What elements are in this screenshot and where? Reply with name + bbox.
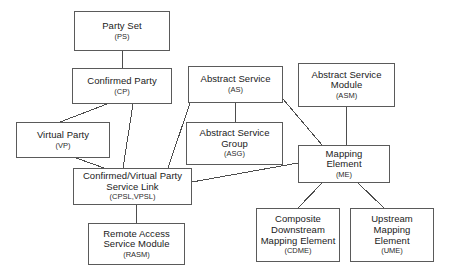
connector-line-cp-cpsl (123, 104, 133, 168)
node-box-ume[interactable]: Upstream Mapping Element(UME) (350, 208, 434, 262)
node-title-vp: Virtual Party (37, 130, 89, 141)
node-title-asg: Abstract Service Group (200, 128, 270, 149)
connector-line-me-cdme (298, 183, 322, 208)
node-abbr-cpsl: (CPSL,VPSL) (110, 193, 156, 201)
connector-line-vp-cpsl (76, 158, 104, 168)
node-abbr-ps: (PS) (115, 33, 130, 41)
connector-line-cp-vp (60, 104, 107, 122)
node-title-ume: Upstream Mapping Element (371, 214, 413, 246)
node-title-me: Mapping Element (326, 149, 363, 170)
connector-line-cpsl-me (192, 163, 298, 182)
node-title-cdme: Composite Downstream Mapping Element (261, 214, 336, 246)
node-abbr-rasm: (RASM) (123, 251, 150, 259)
node-abbr-asg: (ASG) (224, 150, 245, 158)
node-box-asg[interactable]: Abstract Service Group(ASG) (186, 122, 283, 165)
connector-line-me-ume (358, 183, 384, 208)
node-abbr-as: (AS) (228, 86, 243, 94)
node-abbr-cp: (CP) (114, 88, 129, 96)
node-abbr-asm: (ASM) (336, 92, 357, 100)
node-abbr-cdme: (CDME) (284, 247, 311, 255)
node-box-cpsl[interactable]: Confirmed/Virtual Party Service Link(CPS… (73, 168, 192, 205)
entity-relationship-diagram: Party Set(PS)Confirmed Party(CP)Abstract… (0, 0, 450, 272)
node-box-vp[interactable]: Virtual Party(VP) (16, 122, 110, 158)
node-box-rasm[interactable]: Remote Access Service Module(RASM) (88, 223, 185, 265)
node-abbr-me: (ME) (336, 171, 352, 179)
node-box-ps[interactable]: Party Set(PS) (74, 11, 170, 51)
node-box-cp[interactable]: Confirmed Party(CP) (72, 68, 172, 104)
node-title-cpsl: Confirmed/Virtual Party Service Link (83, 171, 182, 192)
node-box-as[interactable]: Abstract Service(AS) (188, 66, 283, 103)
node-title-rasm: Remote Access Service Module (103, 229, 170, 250)
node-title-as: Abstract Service (201, 74, 271, 85)
node-box-asm[interactable]: Abstract Service Module(ASM) (298, 63, 395, 107)
node-title-asm: Abstract Service Module (312, 70, 382, 91)
node-title-ps: Party Set (102, 21, 142, 32)
node-title-cp: Confirmed Party (87, 76, 156, 87)
node-box-cdme[interactable]: Composite Downstream Mapping Element(CDM… (256, 208, 340, 262)
node-abbr-ume: (UME) (381, 247, 403, 255)
node-box-me[interactable]: Mapping Element(ME) (298, 145, 390, 183)
node-abbr-vp: (VP) (56, 142, 71, 150)
